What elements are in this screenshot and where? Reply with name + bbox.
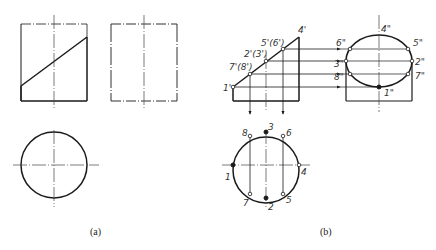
point-2prime (264, 59, 268, 63)
label-7: 7 (243, 198, 249, 208)
panel-b-side-view (340, 15, 414, 112)
label-6: 6 (286, 128, 292, 138)
panel-a-side-view (111, 15, 177, 110)
label-5prime-6prime: 5'(6') (261, 38, 284, 48)
label-1prime: 1' (223, 83, 231, 93)
label-5: 5 (286, 195, 292, 205)
label-4prime: 4' (298, 25, 306, 35)
panel-a-top-view (13, 130, 99, 207)
label-6dprime: 6" (336, 38, 346, 48)
label-2dprime: 2" (415, 57, 425, 67)
point-7prime (248, 72, 252, 76)
caption-b: (b) (320, 226, 332, 238)
label-8dprime: 8" (334, 72, 344, 82)
label-3dprime: 3" (334, 59, 344, 69)
label-5dprime: 5" (413, 38, 423, 48)
label-3: 3 (268, 122, 274, 132)
label-7dprime: 7" (415, 71, 425, 81)
label-4: 4 (301, 167, 307, 177)
panel-b-front-labels: 1' 7'(8') 2'(3') 5'(6') 4' (223, 25, 306, 93)
point-1prime (231, 85, 235, 89)
label-8: 8 (242, 128, 248, 138)
label-2prime-3prime: 2'(3') (244, 49, 267, 59)
caption-a: (a) (90, 226, 101, 238)
label-2: 2 (268, 202, 274, 212)
projection-diagram: (a) 1' 7'( (0, 0, 436, 250)
panel-b-top-view (222, 130, 310, 207)
label-1: 1 (225, 172, 231, 182)
panel-a: (a) (13, 15, 177, 238)
label-1dprime: 1" (384, 88, 394, 98)
label-7prime-8prime: 7'(8') (229, 62, 252, 72)
panel-a-front-view (21, 15, 87, 110)
panel-b: 1' 7'(8') 2'(3') 5'(6') 4' (222, 15, 425, 238)
label-4dprime: 4" (381, 24, 391, 34)
